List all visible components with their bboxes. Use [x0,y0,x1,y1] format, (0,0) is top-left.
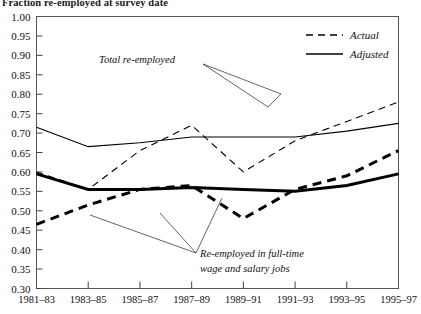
x-tick-label: 1985–87 [122,294,159,305]
y-axis-labels: 1.000.950.900.850.800.750.700.650.600.55… [11,11,31,295]
x-tick-label: 1989–91 [225,294,262,305]
y-tick-label: 0.85 [11,69,31,81]
x-tick-label: 1983–85 [70,294,107,305]
annotation-fulltime-line1: Re-employed in full-time [199,248,304,259]
y-tick-label: 1.00 [11,11,31,23]
y-tick-label: 0.65 [11,147,31,159]
y-tick-label: 0.70 [11,127,31,139]
y-tick-label: 0.50 [11,205,31,217]
x-tick-label: 1987–89 [173,294,210,305]
y-tick-label: 0.75 [11,108,31,120]
chart-plot: 1.000.950.900.850.800.750.700.650.600.55… [0,0,421,314]
legend-label-actual: Actual [349,29,379,41]
legend-label-adjusted: Adjusted [349,48,389,60]
y-tick-label: 0.90 [11,49,31,61]
x-tick-label: 1991–93 [277,294,314,305]
y-tick-label: 0.35 [11,263,31,275]
y-tick-label: 0.40 [11,244,31,256]
y-tick-label: 0.95 [11,30,31,42]
x-axis-labels: 1981–831983–851985–871987–891989–911991–… [18,294,417,305]
x-tick-label: 1993–95 [328,294,365,305]
y-tick-label: 0.60 [11,166,31,178]
annotation-fulltime-line2: wage and salary jobs [200,263,290,274]
y-tick-label: 0.55 [11,185,31,197]
x-tick-label: 1995–97 [380,294,417,305]
x-tick-label: 1981–83 [18,294,55,305]
annotation-total-re-employed: Total re-employed [99,54,176,65]
y-tick-label: 0.80 [11,88,31,100]
y-tick-label: 0.45 [11,224,31,236]
chart-figure: Fraction re-employed at survey date 1.00… [0,0,421,314]
